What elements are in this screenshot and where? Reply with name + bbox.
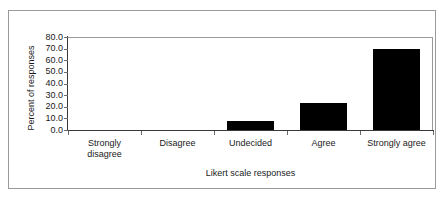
x-axis-tick-mark [68,131,69,135]
x-axis-title: Likert scale responses [68,168,433,178]
x-axis-tick-mark [360,131,361,135]
y-axis-tick-mark [64,72,68,73]
bar [227,121,274,130]
y-axis-tick-mark [64,118,68,119]
bar [300,103,347,130]
x-axis-tick-label: Strongly agree [350,138,443,149]
x-axis-tick-label-line: Strongly agree [350,138,443,149]
y-axis-tick-label: 50.0 [26,67,63,76]
bar [373,49,420,130]
x-axis-tick-mark [141,131,142,135]
y-axis-tick-mark [64,107,68,108]
y-axis-tick-label: 40.0 [26,79,63,88]
x-axis-tick-mark [287,131,288,135]
y-axis-tick-labels: 80.070.060.050.040.030.020.010.00.0 [26,32,63,135]
y-axis-tick-label: 80.0 [26,33,63,42]
y-axis-tick-label: 0.0 [26,126,63,135]
y-axis-tick-mark [64,49,68,50]
x-axis-tick-mark [214,131,215,135]
y-axis-tick-label: 60.0 [26,56,63,65]
y-axis-tick-mark [64,37,68,38]
x-axis-tick-labels: StronglydisagreeDisagreeUndecidedAgreeSt… [68,138,433,164]
y-axis-tick-label: 10.0 [26,114,63,123]
y-axis-tick-mark [64,60,68,61]
x-axis-tick-mark [433,131,434,135]
x-axis-tick-label-line: disagree [58,149,151,160]
y-axis-tick-label: 70.0 [26,44,63,53]
x-axis-line [67,130,434,131]
y-axis-tick-mark [64,84,68,85]
chart-figure: Percent of responses 80.070.060.050.040.… [0,0,445,208]
y-axis-tick-mark [64,95,68,96]
y-axis-tick-label: 30.0 [26,91,63,100]
y-axis-tick-label: 20.0 [26,102,63,111]
